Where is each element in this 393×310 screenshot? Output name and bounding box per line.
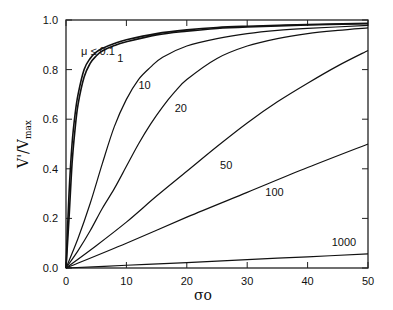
curve-label: 100 bbox=[265, 186, 283, 198]
x-axis-title: σo bbox=[194, 287, 212, 303]
curve-label: 1000 bbox=[332, 236, 356, 248]
curve-0.1 bbox=[66, 23, 368, 268]
y-axis-title: V'/Vmax bbox=[15, 120, 33, 169]
curve-label: 20 bbox=[175, 102, 187, 114]
curves bbox=[66, 23, 368, 268]
svg-text:V'/Vmax: V'/Vmax bbox=[15, 120, 33, 169]
x-tick-label: 50 bbox=[362, 275, 374, 287]
curve-label: 1 bbox=[117, 52, 123, 64]
plot-frame bbox=[66, 20, 368, 268]
y-tick-label: 0.2 bbox=[43, 212, 58, 224]
y-tick-label: 0.4 bbox=[43, 163, 58, 175]
y-tick-label: 0.6 bbox=[43, 113, 58, 125]
y-tick-label: 0.8 bbox=[43, 64, 58, 76]
curve-1000 bbox=[66, 254, 368, 268]
x-tick-label: 10 bbox=[120, 275, 132, 287]
x-tick-label: 20 bbox=[181, 275, 193, 287]
x-tick-label: 30 bbox=[241, 275, 253, 287]
curve-label: 50 bbox=[220, 159, 232, 171]
curve-50 bbox=[66, 51, 368, 268]
curve-labels: μ ≤ 0.111020501001000 bbox=[81, 45, 356, 248]
plot-border bbox=[66, 20, 368, 268]
x-tick-label: 0 bbox=[63, 275, 69, 287]
curve-100 bbox=[66, 144, 368, 268]
chart: 010203040500.00.20.40.60.81.0 μ ≤ 0.1110… bbox=[0, 0, 393, 310]
x-tick-label: 40 bbox=[301, 275, 313, 287]
y-tick-label: 0.0 bbox=[43, 262, 58, 274]
curve-label: μ ≤ 0.1 bbox=[81, 45, 115, 57]
y-tick-label: 1.0 bbox=[43, 14, 58, 26]
curve-label: 10 bbox=[138, 79, 150, 91]
curve-20 bbox=[66, 28, 368, 268]
